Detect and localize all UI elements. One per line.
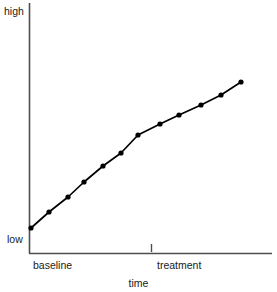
plot-area — [0, 0, 277, 292]
data-point — [238, 79, 243, 84]
data-point — [198, 102, 203, 107]
data-point-markers — [28, 79, 243, 230]
data-point — [176, 112, 181, 117]
data-point — [28, 225, 33, 230]
data-point — [118, 150, 123, 155]
chart-figure: high low baseline treatment time — [0, 0, 277, 292]
data-point — [46, 209, 51, 214]
data-point — [157, 121, 162, 126]
data-point — [100, 163, 105, 168]
data-point — [218, 92, 223, 97]
data-point — [135, 132, 140, 137]
data-point — [81, 179, 86, 184]
data-point — [65, 194, 70, 199]
data-line — [31, 82, 241, 228]
